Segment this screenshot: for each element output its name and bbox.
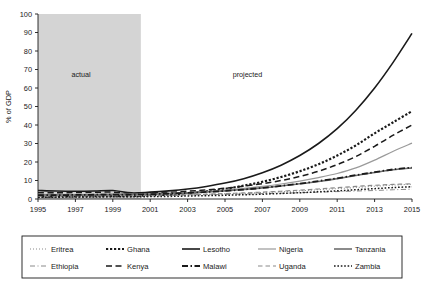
legend-label-tanzania[interactable]: Tanzania <box>355 245 386 254</box>
y-tick-label: 20 <box>24 158 32 167</box>
x-tick-label: 2007 <box>254 205 270 214</box>
legend-label-malawi[interactable]: Malawi <box>203 262 227 271</box>
x-tick-label: 2005 <box>217 205 233 214</box>
y-tick-label: 60 <box>24 84 32 93</box>
x-tick-label: 2009 <box>292 205 308 214</box>
x-tick-label: 2011 <box>329 205 345 214</box>
y-tick-label: 90 <box>24 28 32 37</box>
region-annotation: projected <box>233 70 263 79</box>
x-tick-label: 1999 <box>105 205 121 214</box>
legend-label-kenya[interactable]: Kenya <box>127 262 149 271</box>
gdp-projection-line-chart: 0102030405060708090100199519971999200120… <box>0 0 424 287</box>
region-annotation: actual <box>71 70 91 79</box>
legend-label-ethiopia[interactable]: Ethiopia <box>51 262 79 271</box>
legend-label-uganda[interactable]: Uganda <box>279 262 306 271</box>
x-tick-label: 1995 <box>30 205 46 214</box>
actual-period-shading <box>38 14 141 199</box>
y-tick-label: 50 <box>24 102 32 111</box>
y-tick-label: 80 <box>24 47 32 56</box>
y-axis-title: % of GDP <box>4 90 13 123</box>
y-tick-label: 70 <box>24 65 32 74</box>
legend-label-lesotho[interactable]: Lesotho <box>203 245 230 254</box>
legend-box <box>22 236 402 278</box>
x-tick-label: 1997 <box>67 205 83 214</box>
legend-label-nigeria[interactable]: Nigeria <box>279 245 304 254</box>
y-tick-label: 30 <box>24 139 32 148</box>
y-tick-label: 40 <box>24 121 32 130</box>
y-tick-label: 100 <box>20 10 32 19</box>
legend-label-eritrea[interactable]: Eritrea <box>51 245 74 254</box>
x-tick-label: 2003 <box>179 205 195 214</box>
x-tick-label: 2001 <box>142 205 158 214</box>
x-tick-label: 2015 <box>404 205 420 214</box>
chart-container: 0102030405060708090100199519971999200120… <box>0 0 424 287</box>
legend-label-ghana[interactable]: Ghana <box>127 245 151 254</box>
y-tick-label: 10 <box>24 176 32 185</box>
legend-label-zambia[interactable]: Zambia <box>355 262 381 271</box>
y-tick-label: 0 <box>28 195 32 204</box>
x-tick-label: 2013 <box>366 205 382 214</box>
